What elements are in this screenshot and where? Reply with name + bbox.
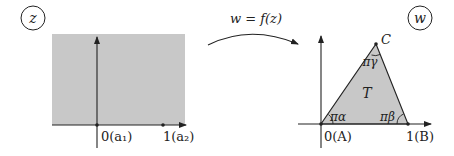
mapping-arrow: w = f(z) — [208, 11, 298, 45]
curved-arrow-icon — [208, 34, 298, 45]
z-label-one: 1(a₂) — [163, 129, 194, 144]
vertex-B — [406, 122, 410, 126]
mapping-label: w = f(z) — [230, 11, 282, 26]
z-badge-label: z — [28, 10, 37, 26]
w-badge-label: w — [414, 10, 426, 26]
w-badge: w — [408, 6, 432, 30]
z-label-origin: 0(a₁) — [101, 129, 132, 144]
angle-label-beta: πβ — [379, 110, 395, 124]
z-badge: z — [21, 6, 45, 30]
vertex-C — [374, 42, 378, 46]
w-label-B: 1(B) — [406, 129, 434, 144]
upper-half-plane-region — [52, 34, 185, 125]
conformal-map-diagram: z 0(a₁) 1(a₂) w = f(z) w C πγ T πα — [0, 0, 454, 156]
angle-label-gamma: πγ — [361, 55, 378, 69]
z-point-a2 — [161, 123, 165, 127]
vertex-A — [319, 122, 323, 126]
w-plane: w C πγ T πα πβ 0(A) 1(B) — [298, 6, 434, 148]
w-label-A: 0(A) — [324, 129, 352, 144]
z-plane: z 0(a₁) 1(a₂) — [21, 6, 194, 148]
vertex-label-C: C — [381, 32, 391, 47]
z-point-a1 — [95, 123, 99, 127]
angle-label-alpha: πα — [329, 110, 346, 124]
